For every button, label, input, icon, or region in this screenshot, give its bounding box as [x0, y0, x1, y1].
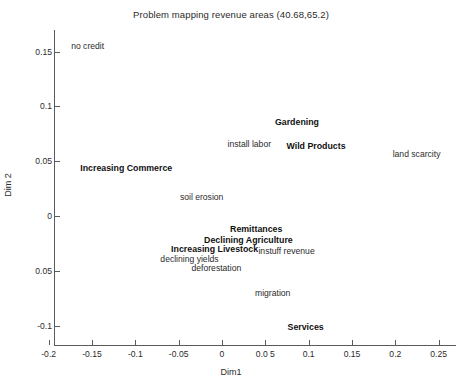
scatter-point-label: Gardening	[275, 118, 319, 127]
x-tick-mark	[265, 340, 266, 345]
x-axis-line	[54, 345, 456, 346]
x-tick-mark	[222, 340, 223, 345]
y-tick-label: 0.15	[35, 47, 52, 57]
scatter-point-label: install labor	[228, 140, 271, 149]
y-axis-label: Dim 2	[3, 165, 13, 205]
x-tick-mark	[352, 340, 353, 345]
scatter-point-label: migration	[255, 289, 290, 298]
y-tick-mark	[55, 326, 60, 327]
x-tick-label: 0.15	[344, 349, 361, 359]
scatter-point-label: Services	[288, 323, 324, 332]
chart-title: Problem mapping revenue areas (40.68,65.…	[0, 9, 462, 20]
y-tick-label: -0.1	[37, 321, 52, 331]
y-tick-mark	[55, 216, 60, 217]
scatter-point-label: no credit	[71, 41, 104, 50]
y-tick-mark	[55, 161, 60, 162]
x-tick-label: 0.25	[430, 349, 447, 359]
scatter-point-label: Wild Products	[287, 142, 346, 151]
y-tick-label: 0.05	[35, 266, 52, 276]
y-axis-line	[54, 30, 55, 346]
y-tick-mark	[55, 271, 60, 272]
scatter-point-label: land scarcity	[393, 150, 441, 159]
x-tick-mark	[92, 340, 93, 345]
x-tick-mark	[439, 340, 440, 345]
x-axis-label: Dim1	[0, 367, 462, 377]
scatter-point-label: Remittances	[230, 224, 282, 233]
x-tick-mark	[49, 340, 50, 345]
x-tick-label: -0.05	[169, 349, 189, 359]
x-tick-label: 0	[220, 349, 225, 359]
x-tick-mark	[309, 340, 310, 345]
x-tick-label: 0.0 5	[256, 349, 275, 359]
scatter-point-label: soil erosion	[180, 193, 223, 202]
x-tick-label: 0.1	[303, 349, 315, 359]
y-tick-label: 0.05	[35, 156, 52, 166]
x-tick-mark	[135, 340, 136, 345]
x-tick-mark	[179, 340, 180, 345]
x-tick-label: -0.1	[128, 349, 143, 359]
y-tick-label: 0	[47, 211, 52, 221]
x-tick-mark	[395, 340, 396, 345]
scatter-point-label: deforestation	[192, 264, 242, 273]
chart-figure: Problem mapping revenue areas (40.68,65.…	[0, 0, 462, 392]
scatter-point-label: Increasing Commerce	[80, 164, 172, 173]
scatter-point-label: Declining Agriculture	[204, 235, 293, 244]
y-tick-label: 0.1	[40, 101, 52, 111]
x-tick-label: -0.15	[82, 349, 102, 359]
scatter-point-label: instuff revenue	[258, 246, 314, 255]
y-tick-mark	[55, 106, 60, 107]
x-tick-label: 0.2	[389, 349, 401, 359]
x-tick-label: -0.2	[41, 349, 56, 359]
y-tick-mark	[55, 52, 60, 53]
scatter-point-label: Increasing Livestock	[171, 245, 258, 254]
